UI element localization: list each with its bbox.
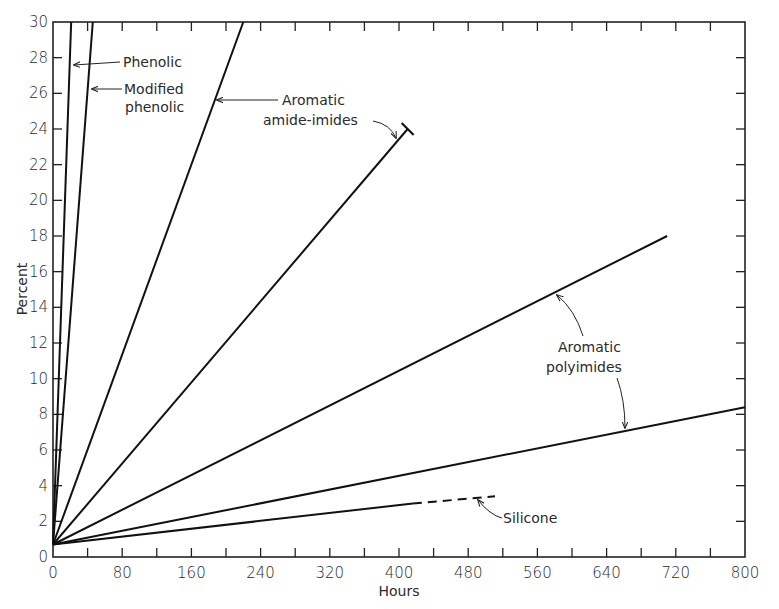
x-tick-label: 720 [661, 564, 690, 582]
y-tick-label: 20 [29, 191, 48, 209]
annotation-amide-imides: Aromatic amide-imides [217, 92, 396, 138]
y-tick-label: 28 [29, 49, 48, 67]
series-line [53, 22, 71, 545]
annotation-modified-label-1: Modified [124, 81, 184, 97]
y-tick-label: 4 [38, 477, 48, 495]
annotation-phenolic-label: Phenolic [123, 54, 182, 70]
annotation-modified-phenolic: Modified phenolic [92, 81, 184, 115]
line-chart: 080160240320400480560640720800 024681012… [0, 0, 779, 609]
x-tick-label: 480 [454, 564, 483, 582]
y-tick-label: 30 [29, 13, 48, 31]
x-tick-label: 240 [246, 564, 275, 582]
y-tick-label: 16 [29, 263, 48, 281]
x-tick-label: 800 [731, 564, 760, 582]
annotation-amide-label-2: amide-imides [263, 112, 358, 128]
annotation-polyimides: Aromatic polyimides [546, 295, 625, 428]
y-tick-label: 10 [29, 370, 48, 388]
x-tick-label: 80 [113, 564, 132, 582]
y-tick-label: 26 [29, 84, 48, 102]
x-axis-title: Hours [378, 583, 419, 599]
x-tick-label: 640 [592, 564, 621, 582]
series-line [53, 236, 667, 545]
y-axis-title: Percent [14, 262, 30, 315]
x-tick-label: 560 [523, 564, 552, 582]
y-tick-label: 24 [29, 120, 48, 138]
series-line [53, 407, 745, 544]
x-tick-label: 0 [48, 564, 58, 582]
y-tick-label: 14 [29, 298, 48, 316]
x-tick-label: 400 [385, 564, 414, 582]
y-tick-label: 22 [29, 156, 48, 174]
annotation-poly-label-2: polyimides [546, 359, 622, 375]
annotation-silicone: Silicone [478, 500, 557, 526]
y-tick-label: 8 [38, 405, 48, 423]
y-tick-label: 2 [38, 512, 48, 530]
series-line [53, 129, 408, 545]
series-line [53, 22, 93, 545]
annotation-silicone-label: Silicone [503, 510, 557, 526]
y-tick-label: 6 [38, 441, 48, 459]
annotation-modified-label-2: phenolic [125, 99, 184, 115]
x-tick-label: 160 [177, 564, 206, 582]
annotation-amide-label-1: Aromatic [282, 92, 345, 108]
y-tick-label: 18 [29, 227, 48, 245]
y-tick-label: 12 [29, 334, 48, 352]
y-tick-label: 0 [38, 548, 48, 566]
x-tick-label: 320 [315, 564, 344, 582]
series-line [413, 496, 495, 503]
annotation-poly-label-1: Aromatic [558, 339, 621, 355]
